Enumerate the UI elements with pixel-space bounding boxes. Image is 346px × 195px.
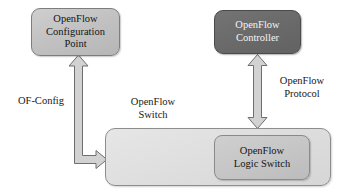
diagram-canvas: OpenFlow Logic Switch OpenFlow Configura… [0, 0, 346, 195]
openflow-controller-label: OpenFlow Controller [215, 19, 300, 45]
openflow-logic-switch-node: OpenFlow Logic Switch [214, 135, 310, 180]
openflow-logic-switch-label: OpenFlow Logic Switch [215, 145, 309, 171]
openflow-switch-title-label: OpenFlow Switch [108, 96, 198, 122]
of-config-arrow [69, 55, 107, 169]
openflow-configuration-point-node: OpenFlow Configuration Point [31, 8, 120, 56]
openflow-controller-node: OpenFlow Controller [214, 10, 301, 54]
of-config-connector-label: OF-Config [8, 95, 74, 108]
openflow-protocol-connector-label: OpenFlow Protocol [264, 75, 340, 101]
openflow-configuration-point-label: OpenFlow Configuration Point [32, 13, 119, 51]
